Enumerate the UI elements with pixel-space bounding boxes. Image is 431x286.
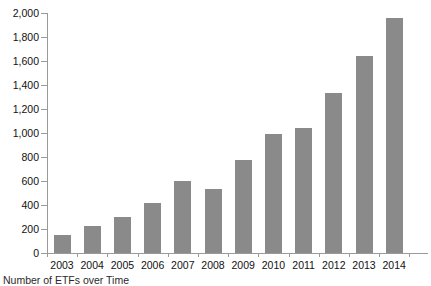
x-axis-tick (228, 253, 229, 257)
bar-2006 (144, 203, 161, 253)
x-axis-tick (77, 253, 78, 257)
x-axis-tick (319, 253, 320, 257)
x-axis-tick (138, 253, 139, 257)
y-axis-tick-label-text: 2,000 (1, 8, 39, 19)
y-axis-tick-label: 1,600 (0, 56, 39, 67)
bar-2003 (54, 235, 71, 253)
bar-2011 (295, 128, 312, 253)
plot-area (47, 13, 427, 253)
bar-chart-figure: 02004006008001,0001,2001,4001,6001,8002,… (0, 0, 431, 286)
y-axis-tick-label: 1,400 (0, 80, 39, 91)
x-axis-line (47, 253, 428, 254)
x-axis-tick (289, 253, 290, 257)
y-axis-tick-label: 1,200 (0, 104, 39, 115)
bar-2005 (114, 217, 131, 253)
bar-2012 (325, 93, 342, 253)
bar-2008 (205, 189, 222, 253)
x-axis-tick (349, 253, 350, 257)
y-axis-tick-label: 0 (0, 248, 39, 259)
y-axis-tick-label-text: 800 (1, 152, 39, 163)
figure-caption: Number of ETFs over Time (3, 274, 129, 286)
x-axis-tick (379, 253, 380, 257)
y-axis-tick-label: 1,800 (0, 32, 39, 43)
y-axis-tick-label-text: 200 (1, 224, 39, 235)
y-axis-tick-label-text: 600 (1, 176, 39, 187)
y-axis-tick-label-text: 400 (1, 200, 39, 211)
y-axis-tick-label: 800 (0, 152, 39, 163)
y-axis-tick-label: 600 (0, 176, 39, 187)
y-axis-tick-label: 2,000 (0, 8, 39, 19)
bar-2010 (265, 134, 282, 253)
y-axis-tick-label: 1,000 (0, 128, 39, 139)
x-axis-tick (258, 253, 259, 257)
bar-2009 (235, 160, 252, 253)
y-axis-tick-label-text: 1,600 (1, 56, 39, 67)
x-axis-label-2014: 2014 (374, 260, 414, 271)
y-axis-tick-label: 200 (0, 224, 39, 235)
bar-2004 (84, 226, 101, 253)
y-axis-tick-label-text: 1,000 (1, 128, 39, 139)
y-axis-tick-label-text: 1,200 (1, 104, 39, 115)
x-axis-tick (168, 253, 169, 257)
y-axis-tick-label-text: 1,400 (1, 80, 39, 91)
y-axis-tick-label: 400 (0, 200, 39, 211)
x-axis-tick (409, 253, 410, 257)
y-axis-tick-label-text: 0 (1, 248, 39, 259)
y-axis-tick-label-text: 1,800 (1, 32, 39, 43)
x-axis-tick (47, 253, 48, 257)
bar-2007 (174, 181, 191, 253)
x-axis-tick (107, 253, 108, 257)
bar-2014 (386, 18, 403, 253)
x-axis-tick (198, 253, 199, 257)
bar-2013 (356, 56, 373, 253)
